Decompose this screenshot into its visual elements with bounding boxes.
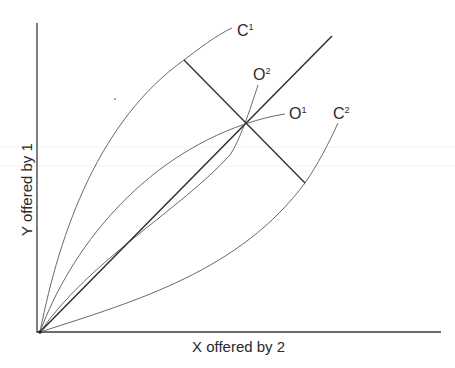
label-c2: C2 (333, 105, 350, 122)
contract-line (184, 60, 305, 183)
x-axis-label: X offered by 2 (192, 338, 285, 355)
curve-c1 (40, 28, 232, 332)
curve-c2 (40, 123, 338, 332)
label-o2: O2 (253, 66, 270, 83)
diagonal-line (40, 36, 332, 332)
origin-point (38, 330, 42, 334)
dot-mark (114, 98, 116, 100)
y-axis-label: Y offered by 1 (18, 143, 35, 236)
curve-o2 (40, 85, 258, 332)
label-o1: O1 (289, 105, 306, 122)
offer-curve-diagram: C1 O2 O1 C2 X offered by 2 Y offered by … (0, 0, 455, 368)
label-c1: C1 (237, 22, 254, 39)
